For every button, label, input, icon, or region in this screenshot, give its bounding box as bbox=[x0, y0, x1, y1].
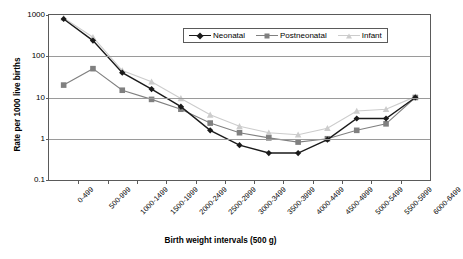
x-axis-tick-labels: 0-499500-9991000-14991500-19992000-24992… bbox=[48, 181, 431, 239]
legend-square-icon bbox=[256, 31, 278, 40]
data-point bbox=[237, 130, 243, 136]
data-point bbox=[295, 139, 301, 145]
y-tick-mark bbox=[46, 15, 49, 16]
x-tick-label: 500-999 bbox=[107, 185, 133, 211]
legend-item-neonatal: Neonatal bbox=[189, 31, 245, 40]
data-point bbox=[354, 128, 360, 134]
data-point bbox=[148, 79, 155, 85]
y-tick-label: 10 bbox=[3, 93, 45, 102]
data-point bbox=[266, 150, 272, 156]
legend-item-postneonatal: Postneonatal bbox=[256, 31, 327, 40]
gridline bbox=[49, 56, 430, 57]
data-point bbox=[236, 123, 243, 129]
y-tick-label: 1000 bbox=[3, 10, 45, 19]
x-tick-label: 1000-1499 bbox=[139, 185, 170, 216]
x-tick-label: 5500-5999 bbox=[402, 185, 433, 216]
x-axis-title: Birth weight intervals (500 g) bbox=[0, 236, 441, 245]
legend-label: Neonatal bbox=[213, 31, 245, 40]
y-tick-label: 0.1 bbox=[3, 175, 45, 184]
legend-diamond-icon bbox=[189, 31, 211, 40]
data-point bbox=[207, 120, 213, 126]
x-tick-label: 4000-4499 bbox=[314, 185, 345, 216]
data-point bbox=[383, 121, 389, 127]
x-tick-label: 2500-2999 bbox=[227, 185, 258, 216]
series-postneonatal bbox=[61, 66, 418, 145]
data-point bbox=[119, 87, 125, 93]
x-tick-label: 3500-3999 bbox=[285, 185, 316, 216]
x-tick-label: 6000-6499 bbox=[432, 185, 463, 216]
legend-label: Infant bbox=[362, 31, 382, 40]
y-tick-mark bbox=[46, 98, 49, 99]
x-tick-label: 4500-4999 bbox=[344, 185, 375, 216]
x-tick-label: 2000-2499 bbox=[197, 185, 228, 216]
gridline bbox=[49, 139, 430, 140]
chart-legend: NeonatalPostneonatalInfant bbox=[183, 28, 388, 43]
x-tick-label: 0-499 bbox=[75, 185, 95, 205]
x-tick-label: 5000-5499 bbox=[373, 185, 404, 216]
x-tick-label: 3000-3499 bbox=[256, 185, 287, 216]
data-point bbox=[324, 125, 331, 131]
gridline bbox=[49, 98, 430, 99]
data-point bbox=[61, 82, 67, 88]
data-point bbox=[207, 112, 214, 118]
legend-item-infant: Infant bbox=[338, 31, 382, 40]
legend-label: Postneonatal bbox=[280, 31, 327, 40]
y-tick-label: 1 bbox=[3, 134, 45, 143]
x-tick-label: 1500-1999 bbox=[168, 185, 199, 216]
y-tick-mark bbox=[46, 139, 49, 140]
data-point bbox=[236, 142, 242, 148]
y-tick-label: 100 bbox=[3, 51, 45, 60]
data-point bbox=[148, 86, 154, 92]
data-point bbox=[295, 150, 301, 156]
y-tick-mark bbox=[46, 56, 49, 57]
data-point bbox=[90, 66, 96, 72]
legend-triangle-icon bbox=[338, 31, 360, 40]
